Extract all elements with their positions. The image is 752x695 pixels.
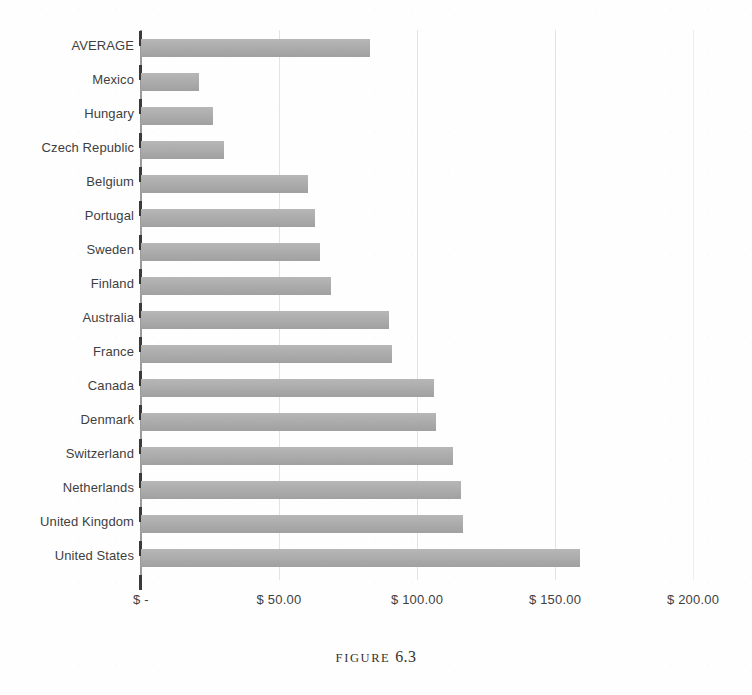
category-label-text: Sweden	[86, 242, 134, 257]
category-label: United Kingdom	[0, 514, 134, 529]
category-label: Canada	[0, 378, 134, 393]
bar	[141, 447, 453, 465]
value-axis-label: $ 100.00	[391, 592, 443, 607]
category-label-text: Mexico	[92, 72, 134, 87]
bar	[141, 515, 463, 533]
bar	[141, 413, 436, 431]
category-label-text: Hungary	[84, 106, 134, 121]
category-label: Denmark	[0, 412, 134, 427]
category-label: France	[0, 344, 134, 359]
figure-caption: FIGURE 6.3	[0, 648, 752, 666]
category-label-text: Portugal	[85, 208, 134, 223]
category-label-text: Switzerland	[66, 446, 134, 461]
category-label: United States	[0, 548, 134, 563]
bar	[141, 209, 315, 227]
value-axis-label: $ 50.00	[257, 592, 302, 607]
bar	[141, 39, 370, 57]
bar	[141, 311, 389, 329]
category-label: Czech Republic	[0, 140, 134, 155]
bar	[141, 345, 392, 363]
bar	[141, 549, 580, 567]
category-label: Mexico	[0, 72, 134, 87]
gridline-200	[693, 30, 694, 580]
bar	[141, 107, 213, 125]
bar	[141, 481, 461, 499]
bar	[141, 73, 199, 91]
category-label-text: Netherlands	[63, 480, 134, 495]
category-label: AVERAGE	[0, 38, 134, 53]
category-label-text: Australia	[83, 310, 134, 325]
category-label-text: Canada	[88, 378, 134, 393]
category-label-text: France	[93, 344, 134, 359]
category-label: Australia	[0, 310, 134, 325]
axis-tick	[139, 575, 142, 590]
category-label: Portugal	[0, 208, 134, 223]
bar	[141, 175, 308, 193]
value-axis-label: $ -	[133, 592, 149, 607]
bar	[141, 141, 224, 159]
category-label: Belgium	[0, 174, 134, 189]
bar-chart: AVERAGEMexicoHungaryCzech RepublicBelgiu…	[0, 0, 752, 632]
value-axis-label: $ 200.00	[667, 592, 719, 607]
figure-caption-word: FIGURE	[336, 651, 391, 665]
figure-page: AVERAGEMexicoHungaryCzech RepublicBelgiu…	[0, 0, 752, 695]
category-label: Switzerland	[0, 446, 134, 461]
bar	[141, 277, 331, 295]
category-label: Netherlands	[0, 480, 134, 495]
category-label-text: Czech Republic	[42, 140, 134, 155]
category-label: Hungary	[0, 106, 134, 121]
category-label-text: Belgium	[86, 174, 134, 189]
figure-caption-number: 6.3	[395, 648, 416, 665]
category-label-text: Finland	[91, 276, 134, 291]
bar	[141, 243, 320, 261]
category-label-text: United Kingdom	[40, 514, 134, 529]
value-axis-label: $ 150.00	[529, 592, 581, 607]
category-label: Finland	[0, 276, 134, 291]
category-label-text: United States	[55, 548, 134, 563]
bar	[141, 379, 434, 397]
category-label: Sweden	[0, 242, 134, 257]
category-label-text: AVERAGE	[71, 38, 134, 53]
category-label-text: Denmark	[81, 412, 134, 427]
gridline-150	[555, 30, 556, 580]
